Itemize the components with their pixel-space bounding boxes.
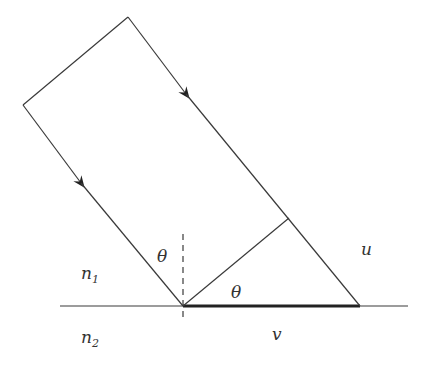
refraction-diagram: θ θ n1 n2 u v [0,0,430,366]
n1-label: n1 [81,263,99,286]
left-ray-lower [81,183,183,306]
right-ray-lower [186,94,360,306]
right-ray-upper [128,17,186,94]
u-label: u [361,239,372,259]
theta-wedge-label: θ [231,282,241,302]
diagram-canvas: θ θ n1 n2 u v [0,0,430,366]
n2-label: n2 [81,327,99,350]
incident-wavefront [23,17,128,105]
v-label: v [272,324,282,344]
left-ray-upper [23,105,81,183]
theta-incidence-label: θ [157,246,167,266]
